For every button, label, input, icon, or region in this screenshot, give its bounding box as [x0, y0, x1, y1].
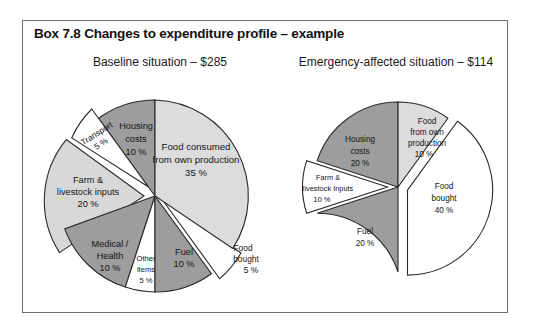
right-label-fuel-pct: 20 %	[356, 239, 375, 248]
right-label-food-own-2: from own	[410, 128, 444, 137]
right-label-farm-2: livestock Inputs	[303, 184, 354, 193]
right-label-housing-pct: 20 %	[351, 159, 370, 168]
right-label-food-bought-2: bought	[431, 194, 457, 203]
right-label-food-bought-1: Food	[435, 182, 454, 191]
right-label-food-own-3: production	[408, 139, 447, 148]
right-label-food-bought-pct: 40 %	[435, 206, 454, 215]
right-pie-chart: Food from own production 10 % Food bough…	[0, 0, 533, 336]
right-label-food-own-pct: 10 %	[415, 150, 434, 159]
right-label-housing-1: Housing	[345, 135, 375, 144]
right-label-farm-pct: 10 %	[314, 195, 331, 204]
right-label-fuel: Fuel	[357, 227, 373, 236]
right-label-housing-2: costs	[350, 147, 369, 156]
right-label-farm-1: Farm &	[316, 173, 340, 182]
right-label-food-own-1: Food	[418, 117, 437, 126]
